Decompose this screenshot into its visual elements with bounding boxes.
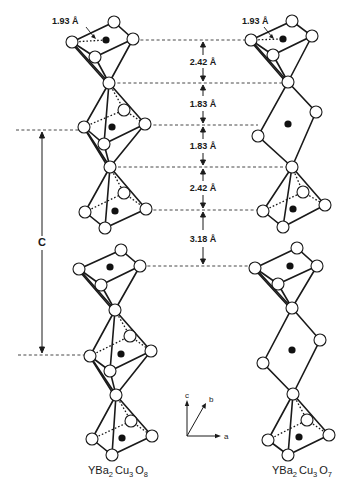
formula-label-o7: YBa2Cu3O7 — [272, 464, 332, 479]
cu-pyramid — [268, 394, 329, 455]
distance-labels: 2.42 Å 1.83 Å 1.83 Å 2.42 Å 3.18 Å C — [38, 57, 217, 248]
distance-label-2: 1.83 Å — [190, 99, 217, 109]
structure-ybco-o7: 1.93 Å YBa2Cu3O7 — [242, 15, 335, 479]
distance-label-5: 3.18 Å — [190, 234, 217, 244]
cu-pyramid — [255, 248, 317, 308]
axis-label-b: b — [209, 395, 214, 404]
cu-pyramid — [92, 395, 152, 455]
reference-lines — [16, 40, 290, 355]
distance-label-1: 2.42 Å — [190, 57, 217, 67]
oxygen-atoms — [66, 16, 158, 461]
bond-length-label-left: 1.93 Å — [52, 16, 79, 26]
axis-triad: c b a — [185, 391, 229, 441]
copper-atoms — [279, 35, 302, 440]
crystal-structure-figure: 2.42 Å 1.83 Å 1.83 Å 2.42 Å 3.18 Å C — [0, 0, 349, 492]
structure-ybco-o8: 1.93 Å YBa2Cu3O8 — [52, 16, 158, 479]
formula-label-o8: YBa2Cu3O8 — [88, 464, 148, 479]
cu-pyramid — [79, 250, 140, 310]
distance-label-3: 1.83 Å — [190, 141, 217, 151]
distance-label-4: 2.42 Å — [190, 183, 217, 193]
axis-label-c: c — [185, 391, 189, 400]
axis-label-a: a — [224, 432, 229, 441]
oxygen-atoms — [245, 15, 335, 461]
bond-length-label-right: 1.93 Å — [242, 16, 269, 26]
cu-pyramid — [251, 21, 312, 82]
cu-pyramid — [72, 22, 133, 83]
cu-pyramid — [85, 167, 146, 228]
cu-pyramid — [263, 167, 325, 227]
c-parameter-label: C — [38, 236, 46, 248]
